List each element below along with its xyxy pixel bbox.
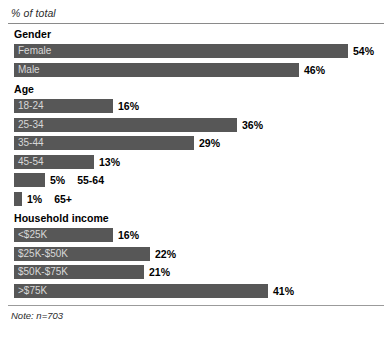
bar-value-label: 5% [45,175,65,186]
bar-row[interactable]: $50K-$75K21% [14,263,384,282]
bar-category-label: $25K-$50K [14,249,68,259]
chart-sections: GenderFemale54%Male46%Age18-2416%25-3436… [8,24,384,300]
bar-category-label: <$25K [14,230,47,240]
bar-value-label: 21% [144,267,170,278]
bar[interactable]: 35-44 [14,136,194,150]
bar-group: 18-2416%25-3436%35-4429%45-5413%5%55-641… [8,97,384,208]
bar-category-label: 18-24 [14,101,44,111]
bar[interactable]: $50K-$75K [14,265,144,279]
bar[interactable]: Male [14,63,299,77]
bar-value-label: 54% [348,46,374,57]
bar-row[interactable]: >$75K41% [14,282,384,301]
section-header-household-income: Household income [8,208,384,226]
bar-row[interactable]: 35-4429% [14,134,384,153]
bar-category-label: Female [14,46,51,56]
bar-row[interactable]: 25-3436% [14,116,384,135]
chart-note: Note: n=703 [8,306,384,321]
bar-value-label: 29% [194,138,220,149]
bar[interactable]: 45-54 [14,155,94,169]
bar[interactable]: <$25K [14,228,113,242]
bar-category-label: $50K-$75K [14,267,68,277]
section-header-age: Age [8,79,384,97]
bar-category-label: 55-64 [65,175,104,186]
bar[interactable] [14,173,45,187]
bar-category-label: 65+ [42,194,72,205]
bar-row[interactable]: 45-5413% [14,153,384,172]
bar-row[interactable]: <$25K16% [14,226,384,245]
bar[interactable]: >$75K [14,284,268,298]
bar-row[interactable]: 5%55-64 [14,171,384,190]
bar-value-label: 13% [94,157,120,168]
bar-value-label: 41% [268,286,294,297]
bar[interactable]: Female [14,44,348,58]
bar[interactable]: 18-24 [14,99,113,113]
axis-title: % of total [8,0,384,23]
bar-category-label: 25-34 [14,120,44,130]
bar[interactable]: 25-34 [14,118,237,132]
bar-category-label: Male [14,65,40,75]
bar-category-label: 45-54 [14,157,44,167]
bar-value-label: 16% [113,230,139,241]
bar-value-label: 22% [150,249,176,260]
bar-value-label: 1% [22,194,42,205]
bar-row[interactable]: Female54% [14,42,384,61]
bar-group: <$25K16%$25K-$50K22%$50K-$75K21%>$75K41% [8,226,384,300]
bar-category-label: 35-44 [14,138,44,148]
bar-row[interactable]: $25K-$50K22% [14,245,384,264]
bar-value-label: 36% [237,120,263,131]
bar-category-label: >$75K [14,286,47,296]
bar-value-label: 46% [299,65,325,76]
bar-group: Female54%Male46% [8,42,384,79]
bar-row[interactable]: Male46% [14,61,384,80]
bar[interactable]: $25K-$50K [14,247,150,261]
bar-row[interactable]: 18-2416% [14,97,384,116]
bar[interactable] [14,192,22,206]
bar-value-label: 16% [113,101,139,112]
bar-row[interactable]: 1%65+ [14,190,384,209]
chart-container: % of total GenderFemale54%Male46%Age18-2… [0,0,392,359]
section-header-gender: Gender [8,24,384,42]
